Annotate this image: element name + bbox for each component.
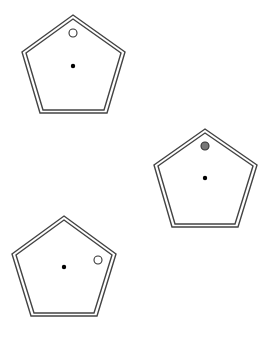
filled-circle-marker: [201, 142, 209, 150]
open-circle-marker: [69, 29, 77, 37]
pentagon-diagram: [0, 0, 272, 339]
open-circle-marker: [94, 256, 102, 264]
pentagon-3: [12, 216, 116, 316]
pentagon-1: [22, 15, 125, 113]
center-dot: [71, 64, 75, 68]
center-dot: [62, 265, 66, 269]
center-dot: [203, 176, 207, 180]
pentagon-2: [154, 129, 257, 227]
